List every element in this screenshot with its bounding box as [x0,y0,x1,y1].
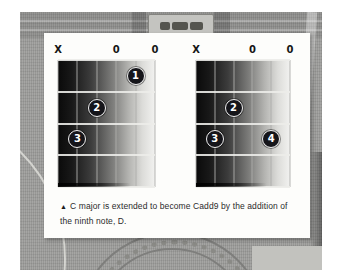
fretboard-grid: 234 [196,60,290,187]
caption-line-1: ▲C major is extended to become Cadd9 by … [60,199,302,214]
book-page-photo: X00 123 X00 234 ▲C major is extended to … [0,0,346,276]
plate-marking [172,22,188,30]
finger-3-marker: 3 [206,130,224,148]
fret-line [58,91,155,93]
caption-triangle-icon: ▲ [60,203,67,210]
plate-marking [160,22,170,30]
fret-line [196,91,290,93]
caption-text-1: C major is extended to become Cadd9 by t… [70,201,288,211]
chord-diagram-cadd9: X00 234 [196,43,290,187]
muted-string-mark: X [54,43,62,57]
fret-line [58,123,155,125]
plate-marking [190,22,203,30]
open-string-row: X00 [58,43,155,60]
fretboard-grid: 123 [58,60,155,187]
fret-line [196,154,290,156]
finger-4-marker: 4 [262,130,280,148]
open-string-mark: 0 [152,43,159,57]
grid-bottom-shade [196,183,290,187]
chord-diagram-c-major: X00 123 [58,43,155,187]
fret-line [196,59,290,61]
chord-card: X00 123 X00 234 ▲C major is extended to … [44,33,310,238]
fret-line [196,123,290,125]
open-string-row: X00 [196,43,290,60]
caption-line-2: the ninth note, D. [60,214,302,229]
open-string-mark: 0 [249,43,256,57]
finger-2-marker: 2 [225,99,243,117]
guitar-body-light-patch [252,246,322,270]
finger-3-marker: 3 [68,130,86,148]
open-string-mark: 0 [113,43,120,57]
finger-2-marker: 2 [88,99,106,117]
caption: ▲C major is extended to become Cadd9 by … [60,199,302,229]
fret-line [58,154,155,156]
open-string-mark: 0 [287,43,294,57]
finger-1-marker: 1 [127,67,145,85]
fret-line [58,59,155,61]
muted-string-mark: X [192,43,200,57]
grid-bottom-shade [58,183,155,187]
